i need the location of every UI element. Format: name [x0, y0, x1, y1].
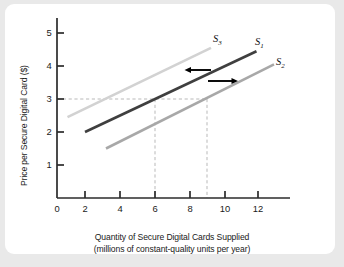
supply-curves [68, 48, 275, 149]
curve-label-s3-sub: 3 [218, 39, 222, 47]
curve-label-s1: S1 [255, 36, 264, 50]
x-axis-ticks [85, 191, 258, 198]
y-tick-label-4: 4 [41, 60, 57, 71]
supply-curve-s2 [106, 64, 274, 148]
figure-page: 5 4 3 2 1 0 2 4 6 8 10 12 Price per Secu… [0, 0, 344, 267]
y-axis-ticks [57, 33, 64, 165]
curve-label-s2: S2 [276, 56, 285, 70]
x-tick-label-12: 12 [250, 203, 266, 214]
x-tick-label-4: 4 [112, 203, 128, 214]
curve-label-s1-sub: 1 [260, 42, 264, 50]
x-tick-label-0: 0 [49, 203, 65, 214]
x-tick-label-2: 2 [77, 203, 93, 214]
guide-lines [57, 99, 207, 198]
right-shift-arrow-icon [208, 78, 238, 84]
y-tick-label-1: 1 [41, 159, 57, 170]
y-tick-label-3: 3 [41, 93, 57, 104]
supply-curve-s1 [85, 51, 257, 132]
x-tick-label-6: 6 [147, 203, 163, 214]
x-axis-title-line1: Quantity of Secure Digital Cards Supplie… [0, 232, 344, 242]
x-tick-label-10: 10 [217, 203, 233, 214]
x-axis-title-line2: (millions of constant-quality units per … [0, 244, 344, 254]
curve-label-s2-sub: 2 [281, 62, 285, 70]
left-shift-arrow-icon [185, 67, 212, 73]
curve-label-s3: S3 [213, 33, 222, 47]
y-axis-title: Price per Secure Digital Card ($) [19, 65, 29, 186]
y-tick-label-5: 5 [41, 27, 57, 38]
x-tick-label-8: 8 [182, 203, 198, 214]
y-tick-label-2: 2 [41, 126, 57, 137]
